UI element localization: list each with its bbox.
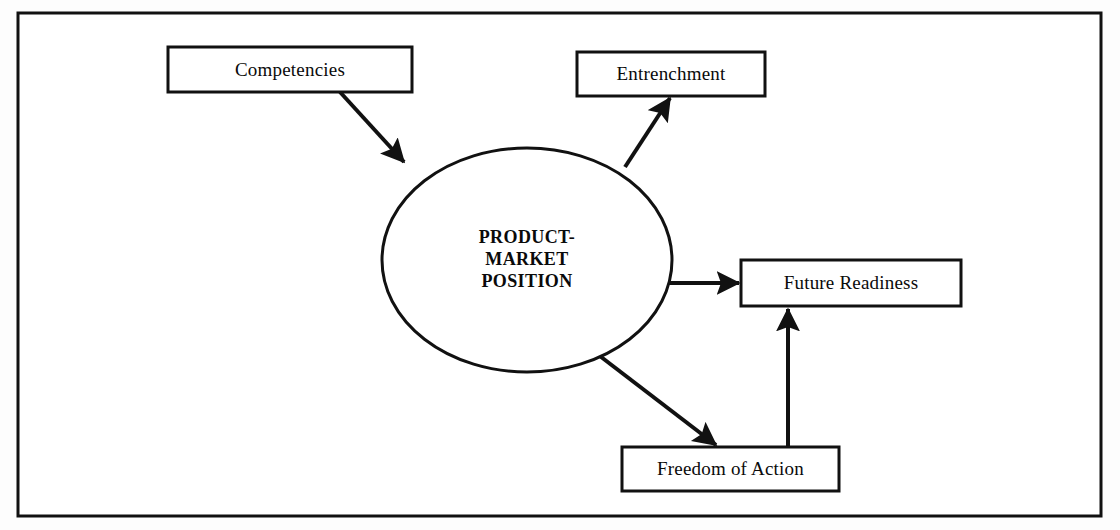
node-entrenchment[interactable] (577, 52, 765, 96)
diagram-canvas: Competencies Entrenchment Future Readine… (0, 0, 1120, 530)
node-future-readiness[interactable] (741, 260, 961, 306)
diagram-vector-layer (0, 0, 1120, 530)
node-competencies[interactable] (168, 47, 412, 92)
node-freedom-of-action[interactable] (622, 447, 839, 491)
node-product-market-position[interactable] (382, 148, 672, 372)
